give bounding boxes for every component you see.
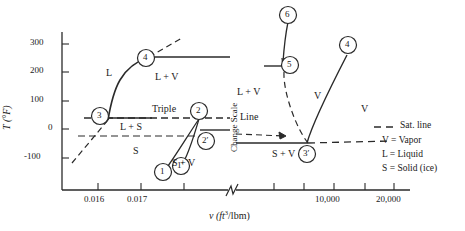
- y-tick-label-300: 300: [30, 38, 44, 47]
- change-scale-label: Change Scale: [230, 103, 239, 152]
- x-axis-title-main: v (ft: [209, 210, 225, 221]
- state-point-label-1: 1: [160, 167, 165, 176]
- line-label-arrowhead: [279, 132, 286, 139]
- x-tick-label-10000: 10,000: [315, 195, 340, 204]
- legend-eq-L: =: [390, 149, 395, 159]
- legend-meaning-S: Solid (ice): [397, 163, 437, 173]
- y-tick-label-200: 200: [30, 66, 44, 75]
- y-axis-ticks: [62, 44, 69, 158]
- state-point-label-2p: 2′: [202, 136, 208, 145]
- region-label-LV-left: L + V: [155, 72, 178, 82]
- y-axis-title: T (°F): [2, 105, 12, 130]
- legend-eq-V: =: [391, 135, 396, 145]
- state-point-label-3p: 3′: [303, 149, 309, 158]
- region-label-S: S: [133, 146, 139, 156]
- region-label-LS: L + S: [120, 122, 142, 132]
- y-tick-label-100: 100: [30, 95, 44, 104]
- state-point-label-5: 5: [287, 60, 292, 69]
- y-tick-label-neg100: -100: [24, 152, 41, 161]
- state-point-label-6: 6: [285, 10, 290, 19]
- legend-meaning-L: Liquid: [398, 149, 423, 159]
- x-axis-title-tail: /lbm): [228, 210, 250, 221]
- legend-entry-vapor: V = Vapor: [382, 136, 421, 146]
- sat-line-dashed-right: [308, 141, 390, 143]
- state-point-label-2: 2: [196, 106, 201, 115]
- line-label-arrow: [236, 134, 286, 136]
- region-label-V-upper: V: [314, 91, 321, 101]
- region-label-L: L: [106, 68, 112, 78]
- legend-entry-solid: S = Solid (ice): [382, 164, 437, 174]
- phase-diagram-figure: 300 200 100 0 -100 T (°F) 0.016 0.017 10…: [0, 0, 465, 231]
- legend-symbol-S: S: [382, 163, 387, 173]
- process-path-5-6: [283, 22, 288, 62]
- state-point-label-4-left: 4: [143, 53, 148, 62]
- region-label-SV-right: S + V: [272, 149, 295, 159]
- legend-meaning-V: Vapor: [399, 135, 422, 145]
- legend-symbol-V: V: [382, 135, 389, 145]
- region-label-LV-right: L + V: [237, 87, 260, 97]
- process-path-1p-2: [184, 119, 199, 161]
- x-axis-title: v (ft3/lbm): [209, 210, 250, 221]
- fusion-line-dashed: [72, 120, 108, 163]
- x-tick-label-20000: 20,000: [376, 195, 401, 204]
- y-tick-label-0: 0: [48, 123, 53, 132]
- line-label: Line: [240, 112, 258, 122]
- x-tick-label-0016: 0.016: [84, 195, 104, 204]
- saturated-vapor-dashed-left: [284, 72, 308, 143]
- region-label-V-right: V: [361, 104, 368, 114]
- legend-symbol-L: L: [382, 149, 387, 159]
- x-axis-ticks-left: [98, 183, 184, 190]
- triple-label: Triple: [152, 104, 176, 114]
- legend-entry-liquid: L = Liquid: [382, 150, 423, 160]
- state-point-label-1p: 1′: [177, 161, 183, 170]
- legend-eq-S: =: [390, 163, 395, 173]
- x-tick-label-0017: 0.017: [127, 195, 147, 204]
- state-point-label-4-right: 4: [345, 40, 350, 49]
- legend-sat-line-label: Sat. line: [400, 121, 431, 131]
- state-point-label-3: 3: [97, 111, 102, 120]
- saturated-vapor-right: [307, 55, 347, 143]
- x-axis-ticks-right: [274, 183, 394, 190]
- region-label-SV-left: S + V: [172, 158, 195, 168]
